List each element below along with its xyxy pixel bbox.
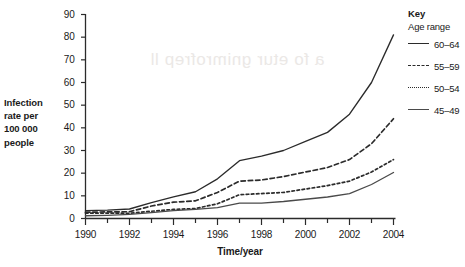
series-line-50-54 xyxy=(86,160,394,214)
legend-entry-50-54[interactable]: 50–54 xyxy=(408,77,465,99)
x-axis-title: Time/year xyxy=(155,246,325,257)
legend-line-swatch-icon xyxy=(408,84,429,92)
legend-entries: 60–6455–5950–5445–49 xyxy=(408,33,465,121)
legend-label: 60–64 xyxy=(434,39,459,50)
plot-area xyxy=(0,0,465,267)
legend-entry-45-49[interactable]: 45–49 xyxy=(408,99,465,121)
legend-label: 55–59 xyxy=(434,61,459,72)
series-line-55-59 xyxy=(86,119,394,212)
legend-line-swatch-icon xyxy=(408,62,429,70)
line-chart-figure: a fo etur gnimrofrep ll Infection rate p… xyxy=(0,0,465,267)
legend-line-swatch-icon xyxy=(408,106,429,114)
axis-lines xyxy=(86,14,396,219)
data-series-group xyxy=(86,35,394,216)
legend-entry-55-59[interactable]: 55–59 xyxy=(408,55,465,77)
legend-label: 50–54 xyxy=(434,83,459,94)
legend-subtitle: Age range xyxy=(408,20,465,33)
series-line-45-49 xyxy=(86,172,394,215)
series-line-60-64 xyxy=(86,35,394,211)
legend-line-swatch-icon xyxy=(408,40,429,48)
legend-label: 45–49 xyxy=(434,105,459,116)
legend-title: Key xyxy=(408,8,465,20)
legend: Key Age range 60–6455–5950–5445–49 xyxy=(408,8,465,121)
legend-entry-60-64[interactable]: 60–64 xyxy=(408,33,465,55)
